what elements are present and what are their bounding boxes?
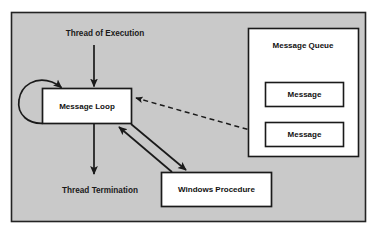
diagram-root: Message Queue Message Message Message Lo… <box>0 0 374 236</box>
diagram-canvas: Message Queue Message Message Message Lo… <box>0 0 374 236</box>
thread-termination-label: Thread Termination <box>62 186 138 195</box>
node-windows-procedure[interactable]: Windows Procedure <box>162 173 272 207</box>
node-message-loop[interactable]: Message Loop <box>43 89 132 124</box>
message-queue-label: Message Queue <box>273 41 334 50</box>
windows-procedure-label: Windows Procedure <box>178 185 255 194</box>
message-loop-label: Message Loop <box>59 102 115 111</box>
message-1-label: Message <box>288 90 322 99</box>
thread-of-execution-label: Thread of Execution <box>66 29 145 38</box>
node-message-1[interactable]: Message <box>266 83 344 107</box>
message-2-label: Message <box>288 130 322 139</box>
node-message-2[interactable]: Message <box>266 123 344 147</box>
